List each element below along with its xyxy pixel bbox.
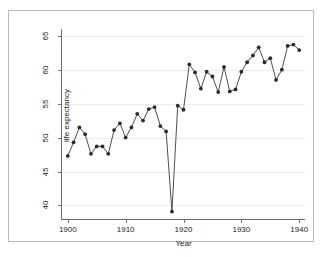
x-axis-tick-label: 1920 [167, 225, 201, 235]
data-point-marker [199, 87, 203, 91]
data-point-marker [101, 144, 105, 148]
data-point-marker [112, 128, 116, 132]
data-point-marker [95, 144, 99, 148]
data-point-marker [89, 152, 93, 156]
data-series-line [62, 29, 305, 219]
data-point-marker [77, 125, 81, 129]
data-point-marker [280, 68, 284, 72]
data-point-marker [72, 140, 76, 144]
graph-frame: 404550556065 19001910192019301940 life e… [8, 10, 314, 242]
y-axis-tick-label: 40 [42, 195, 50, 215]
data-point-marker [187, 62, 191, 66]
x-axis-tick-label: 1900 [51, 225, 85, 235]
data-point-marker [251, 54, 255, 58]
data-point-marker [118, 121, 122, 125]
data-point-marker [228, 90, 232, 94]
data-point-marker [147, 107, 151, 111]
data-point-marker [130, 125, 134, 129]
data-point-marker [124, 136, 128, 140]
y-axis-title: life expectancy [62, 66, 71, 166]
data-point-marker [216, 90, 220, 94]
data-point-marker [211, 75, 215, 79]
data-point-marker [245, 60, 249, 64]
chart-screenshot: 404550556065 19001910192019301940 life e… [0, 0, 322, 257]
y-axis-tick-label: 55 [42, 94, 50, 114]
data-point-marker [170, 210, 174, 214]
x-axis-title: Year [62, 239, 305, 248]
data-point-marker [153, 105, 157, 109]
data-point-marker [176, 104, 180, 108]
data-point-marker [257, 45, 261, 49]
data-point-marker [286, 44, 290, 48]
data-point-marker [158, 124, 162, 128]
data-point-marker [83, 132, 87, 136]
x-axis-tick [299, 219, 300, 223]
data-point-marker [106, 152, 110, 156]
data-point-marker [135, 112, 139, 116]
data-point-marker [268, 56, 272, 60]
data-point-marker [274, 78, 278, 82]
data-point-marker [239, 70, 243, 74]
series-polyline [68, 45, 299, 212]
data-point-marker [222, 65, 226, 69]
data-point-marker [263, 60, 267, 64]
data-point-marker [193, 71, 197, 75]
x-axis-tick [184, 219, 185, 223]
data-point-marker [182, 108, 186, 112]
data-point-marker [205, 70, 209, 74]
y-axis-tick-label: 45 [42, 162, 50, 182]
plot-region: 404550556065 19001910192019301940 life e… [61, 29, 305, 220]
y-axis-tick-label: 60 [42, 60, 50, 80]
x-axis-tick-label: 1940 [282, 225, 316, 235]
x-axis-tick [126, 219, 127, 223]
x-axis-tick [68, 219, 69, 223]
x-axis-tick-label: 1930 [224, 225, 258, 235]
data-point-marker [297, 48, 301, 52]
data-point-marker [164, 130, 168, 134]
data-point-marker [141, 119, 145, 123]
data-point-marker [292, 43, 296, 47]
x-axis-tick-label: 1910 [109, 225, 143, 235]
y-axis-tick-label: 50 [42, 128, 50, 148]
y-axis-tick-label: 65 [42, 26, 50, 46]
x-axis-tick [241, 219, 242, 223]
data-point-marker [234, 87, 238, 91]
